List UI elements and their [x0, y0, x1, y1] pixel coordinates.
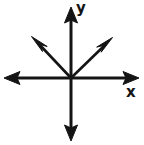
upper-left-ray-line	[38, 43, 71, 78]
upper-left-ray-group	[32, 37, 72, 79]
axes-diagram-canvas	[0, 0, 144, 145]
coordinate-axes-figure: y x	[0, 0, 144, 145]
upper-right-ray-line	[71, 44, 106, 78]
upper-right-ray-group	[71, 38, 113, 79]
x-axis-label: x	[126, 85, 136, 100]
y-axis-label: y	[76, 1, 86, 16]
